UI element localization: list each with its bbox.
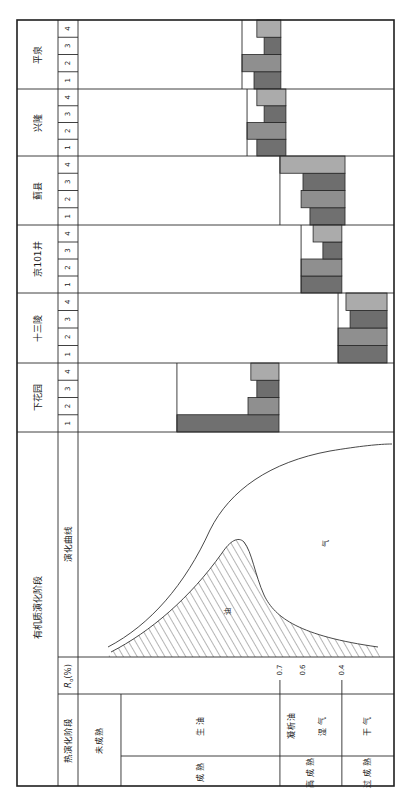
maturity-bar-column-1	[338, 346, 387, 364]
maturity-bar-column-4	[346, 293, 387, 311]
evolution-curve-panel: 油 气	[108, 444, 392, 657]
column-number: 1	[64, 421, 72, 425]
maturity-bar-column-4	[257, 20, 281, 37]
column-number: 3	[64, 44, 72, 48]
maturity-bar-column-3	[323, 242, 342, 259]
maturity-bar-column-1	[177, 415, 279, 432]
ro-axis: 0.70.60.4	[276, 664, 346, 694]
column-number: 4	[64, 231, 72, 236]
column-number: 3	[64, 180, 72, 184]
maturity-bar-column-3	[257, 380, 279, 397]
column-number: 2	[64, 265, 72, 269]
well-section: 兴隆1234	[32, 89, 286, 156]
column-number: 4	[64, 369, 72, 374]
ro-header: Ro(%)	[63, 664, 74, 688]
maturity-bar-column-4	[313, 225, 342, 242]
column-number: 1	[64, 145, 72, 149]
stage-detail-label: 凝析油	[286, 712, 296, 739]
column-number: 2	[64, 61, 72, 65]
oil-window-hatched-region	[108, 539, 380, 657]
maturity-bar-column-3	[303, 173, 345, 190]
well-name: 下花园	[32, 384, 43, 411]
thermal-stage-header: 热演化阶段	[63, 718, 73, 763]
ro-tick-label: 0.4	[338, 664, 346, 676]
maturity-bar-column-4	[257, 89, 286, 106]
stage-main-label: 过成熟	[362, 755, 372, 788]
maturity-bar-column-1	[254, 72, 281, 89]
maturity-bar-column-4	[280, 156, 345, 173]
well-name: 十三陵	[32, 315, 43, 342]
maturity-bar-column-2	[247, 123, 286, 140]
well-section: 平泉1234	[32, 20, 281, 89]
maturity-bar-column-2	[338, 328, 387, 346]
well-section: 蓟县1234	[32, 156, 346, 225]
maturity-bar-column-3	[264, 106, 286, 123]
column-number: 4	[64, 95, 72, 100]
maturity-bar-column-2	[248, 398, 279, 415]
column-number: 2	[64, 197, 72, 201]
ro-tick-label: 0.6	[299, 664, 307, 676]
maturity-bar-column-3	[264, 37, 281, 54]
stage-detail-label: 生油	[195, 714, 205, 736]
well-name: 平泉	[32, 46, 43, 64]
maturity-bar-column-2	[242, 55, 281, 72]
well-name: 京101井	[32, 241, 43, 276]
stage-headers: 有机质演化阶段 演化曲线 Ro(%) 热演化阶段	[32, 526, 75, 763]
column-number: 4	[64, 162, 72, 167]
column-number: 2	[64, 129, 72, 133]
ro-unit: (%)	[63, 664, 73, 679]
column-number: 1	[64, 282, 72, 286]
maturity-bar-column-1	[257, 139, 286, 156]
evolution-curve-header: 演化曲线	[63, 526, 73, 562]
well-sections: 平泉1234兴隆1234蓟县1234京101井1234十三陵1234下花园123…	[32, 20, 388, 432]
column-number: 2	[64, 404, 72, 408]
stage-main-label: 未成熟	[94, 727, 104, 754]
ro-tick-label: 0.7	[276, 664, 284, 675]
maturity-bar-column-1	[301, 276, 342, 293]
thermal-stages: 未成熟成熟高成熟过成熟生油凝析油湿气干气	[94, 694, 394, 788]
column-number: 1	[64, 78, 72, 82]
column-number: 4	[64, 299, 72, 304]
maturity-bar-column-1	[310, 208, 345, 225]
column-number: 1	[64, 352, 72, 356]
column-number: 3	[64, 248, 72, 252]
column-number: 2	[64, 335, 72, 339]
well-section: 下花园1234	[32, 363, 279, 432]
gas-label: 气	[321, 540, 330, 547]
maturity-bar-column-4	[251, 363, 279, 380]
column-number: 3	[64, 112, 72, 116]
column-number: 3	[64, 317, 72, 321]
stage-detail-label: 湿气	[317, 714, 327, 736]
well-name: 兴隆	[32, 114, 43, 132]
column-number: 3	[64, 387, 72, 391]
organic-matter-evolution-figure: 平泉1234兴隆1234蓟县1234京101井1234十三陵1234下花园123…	[0, 0, 404, 793]
maturity-bar-column-2	[301, 259, 342, 276]
maturity-bar-column-3	[350, 311, 387, 329]
column-number: 4	[64, 26, 72, 31]
stage-main-label: 成熟	[195, 760, 205, 782]
stage-detail-label: 干气	[362, 714, 372, 736]
well-name: 蓟县	[32, 182, 43, 200]
stage-main-label: 高成熟	[305, 755, 315, 788]
organic-evolution-stage-header: 有机质演化阶段	[32, 576, 43, 639]
oil-label: 油	[223, 608, 232, 615]
column-number: 1	[64, 214, 72, 218]
well-section: 十三陵1234	[32, 293, 388, 363]
maturity-bar-column-2	[301, 191, 345, 208]
